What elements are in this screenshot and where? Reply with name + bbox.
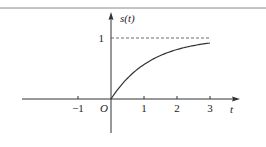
y-axis-arrow-icon	[109, 12, 114, 20]
y-axis-label: s(t)	[120, 12, 135, 25]
x-tick-label: 2	[174, 102, 180, 114]
x-tick-label: −1	[72, 102, 84, 114]
step-response-chart: s(t) t O −11231	[0, 0, 266, 147]
origin-label: O	[100, 102, 108, 114]
y-tick-label: 1	[99, 32, 105, 44]
x-axis-arrow-icon	[232, 97, 240, 102]
x-tick-label: 1	[141, 102, 147, 114]
x-axis-label: t	[230, 103, 234, 115]
series-line-s-t	[111, 43, 210, 99]
x-tick-label: 3	[207, 102, 213, 114]
